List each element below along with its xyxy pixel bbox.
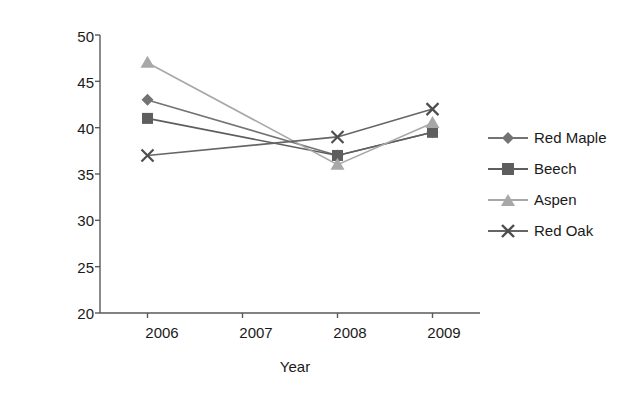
series-markers [141,56,440,170]
legend-label-red-oak: Red Oak [530,222,593,239]
legend-label-red-maple: Red Maple [530,129,607,146]
chart-legend: Red Maple Beech Aspen [486,122,636,246]
diamond-marker-icon [486,128,530,148]
line-chart: Log moisture content (%) 50 45 40 35 30 … [0,0,639,409]
square-marker-icon [486,159,530,179]
legend-item-red-maple: Red Maple [486,122,636,153]
cross-marker-icon [486,221,530,241]
axis-lines [95,35,480,318]
legend-item-aspen: Aspen [486,184,636,215]
legend-label-aspen: Aspen [530,191,577,208]
triangle-marker-icon [486,190,530,210]
legend-label-beech: Beech [530,160,577,177]
series-lines [148,63,433,165]
legend-item-beech: Beech [486,153,636,184]
legend-item-red-oak: Red Oak [486,215,636,246]
